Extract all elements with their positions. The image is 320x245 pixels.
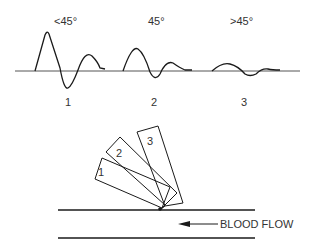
doppler-angle-diagram: <45° 45° >45° 1 2 3 1 2 3 BLOOD FLOW [0, 0, 320, 245]
waveform-number-2: 2 [151, 97, 157, 108]
probe-label-2: 2 [116, 148, 122, 159]
blood-flow-label: BLOOD FLOW [220, 219, 293, 230]
waveform-3 [212, 64, 280, 76]
waveform-2 [123, 48, 192, 77]
probe-label-1: 1 [98, 167, 104, 178]
angle-label-3: >45° [230, 16, 253, 27]
angle-label-1: <45° [54, 16, 77, 27]
probe-label-3: 3 [147, 136, 153, 147]
probe-3 [137, 126, 183, 210]
flow-arrow-icon [178, 221, 218, 227]
angle-label-2: 45° [148, 16, 165, 27]
probe-1 [95, 158, 170, 210]
waveform-number-1: 1 [65, 97, 71, 108]
waveform-1 [35, 32, 105, 88]
waveform-number-3: 3 [241, 97, 247, 108]
diagram-graphics [0, 0, 320, 245]
